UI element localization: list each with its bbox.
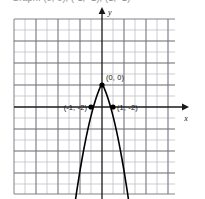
graph-figure: Graph: (0, 0), (-1, -2), (1, -2) bbox=[0, 0, 205, 199]
y-axis-label: y bbox=[107, 8, 112, 17]
point-left bbox=[88, 104, 93, 109]
point-right bbox=[110, 104, 115, 109]
vertex-label: (0, 0) bbox=[106, 73, 124, 82]
x-axis-label: x bbox=[183, 114, 188, 123]
left-point-label: (-1, -2) bbox=[64, 103, 87, 112]
coordinate-plane: (0, 0) (-1, -2) (1, -2) y x bbox=[0, 0, 205, 199]
right-point-label: (1, -2) bbox=[117, 103, 138, 112]
x-axis-arrow bbox=[182, 104, 189, 111]
point-vertex bbox=[99, 82, 104, 87]
y-axis-arrow bbox=[99, 7, 106, 14]
